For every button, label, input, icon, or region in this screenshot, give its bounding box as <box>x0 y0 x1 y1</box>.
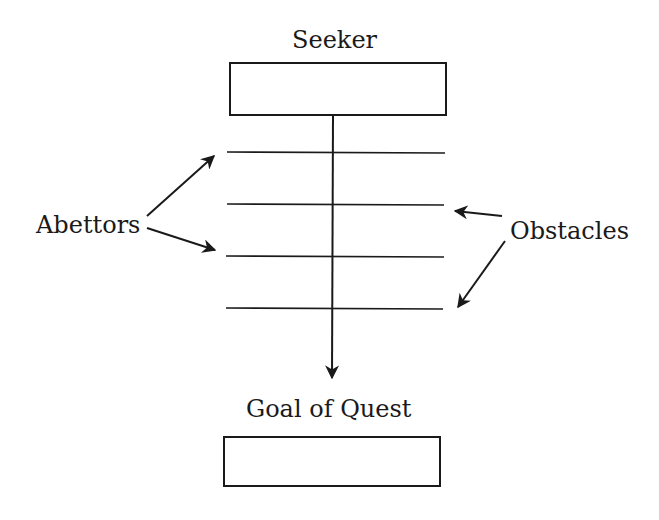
crossbar-3 <box>226 256 444 257</box>
diagram-lines <box>0 0 659 520</box>
crossbar-1 <box>227 152 445 153</box>
abettor-arrow-upper <box>147 156 214 216</box>
obstacle-arrow-lower <box>458 241 505 307</box>
abettor-arrow-lower <box>147 228 215 250</box>
quest-arrow <box>332 116 333 378</box>
crossbar-2 <box>227 204 444 205</box>
crossbar-4 <box>226 308 443 309</box>
obstacle-arrow-upper <box>455 211 502 216</box>
